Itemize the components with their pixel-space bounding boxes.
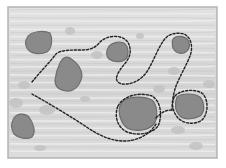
grain-line: [10, 29, 215, 30]
grain-line: [10, 144, 215, 145]
faint-spot: [91, 51, 103, 59]
faint-spot: [168, 67, 180, 75]
faint-spot: [189, 142, 203, 150]
diagram-canvas: [0, 0, 226, 168]
faint-spot: [171, 126, 185, 134]
blob-bottom-center: [119, 97, 157, 130]
faint-spot: [80, 96, 90, 102]
faint-spot: [65, 27, 75, 35]
grain-line: [10, 20, 215, 21]
grain-line: [10, 89, 215, 90]
faint-spot: [34, 145, 46, 151]
blob-right-top: [172, 36, 189, 53]
faint-spot: [18, 81, 30, 89]
diagram-stage: [0, 0, 226, 168]
faint-spot: [9, 98, 23, 108]
blob-top-left: [26, 31, 52, 53]
blob-center-top: [107, 42, 128, 61]
faint-spot: [203, 80, 215, 88]
faint-spot: [153, 85, 165, 93]
blob-bottom-right: [175, 94, 203, 119]
grain-line: [10, 75, 215, 76]
faint-spot: [136, 33, 144, 39]
grain-line: [10, 135, 215, 136]
